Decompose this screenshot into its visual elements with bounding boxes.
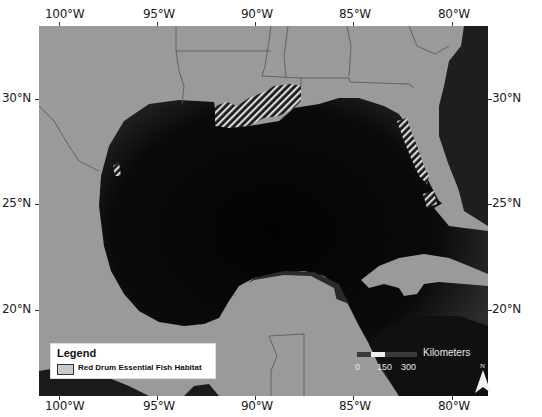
north-arrow-icon: N [472,360,494,394]
top-axis-label-85w: 85°W [339,7,371,21]
top-axis-label-80w: 80°W [438,7,470,21]
top-axis-label-95w: 95°W [143,7,175,21]
scale-tick-150: 150 [377,362,392,372]
tick [255,396,256,400]
right-axis-label-20n: 20°N [492,302,521,316]
top-axis-label-100w: 100°W [45,7,84,21]
tick [353,396,354,400]
bottom-axis-label-85w: 85°W [339,399,371,413]
tick [488,310,492,311]
scale-tick-300: 300 [401,362,416,372]
bottom-axis-label-95w: 95°W [143,399,175,413]
tick [452,396,453,400]
gulf-of-mexico-map [39,26,488,396]
right-axis-label-25n: 25°N [492,196,521,210]
scale-unit-label: Kilometers [423,347,470,358]
left-axis-label-20n: 20°N [2,302,31,316]
legend-label-habitat: Red Drum Essential Fish Habitat [78,363,202,372]
bottom-axis-label-80w: 80°W [438,399,470,413]
tick [488,99,492,100]
tick [157,396,158,400]
tick [59,396,60,400]
top-axis-label-90w: 90°W [241,7,273,21]
tick [488,204,492,205]
map-legend: Legend Red Drum Essential Fish Habitat [50,343,216,379]
left-axis-label-30n: 30°N [2,91,31,105]
legend-swatch-habitat [57,364,74,375]
legend-title: Legend [57,347,96,359]
bottom-axis-label-90w: 90°W [241,399,273,413]
north-label: N [480,362,485,370]
right-axis-label-30n: 30°N [492,91,521,105]
north-arrow: N [472,360,494,398]
scale-tick-0: 0 [355,362,360,372]
map-frame[interactable] [39,26,488,396]
left-axis-label-25n: 25°N [2,196,31,210]
bottom-axis-label-100w: 100°W [45,399,84,413]
